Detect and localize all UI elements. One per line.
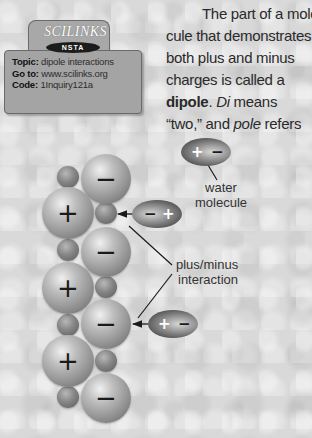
water-molecule-middle: − + (132, 200, 182, 228)
plus-sign: + (162, 207, 175, 222)
plus-sign: + (158, 317, 171, 332)
minus-sign: − (211, 145, 224, 160)
plus-sign: + (191, 145, 204, 160)
label-line: molecule (186, 195, 256, 210)
water-molecule-top: + − (181, 138, 231, 166)
interaction-label: plus/minus interaction (176, 257, 248, 287)
label-line: interaction (176, 272, 248, 287)
label-line: plus/minus (176, 257, 248, 272)
water-molecule-bottom: + − (148, 310, 198, 338)
water-molecule-label: water molecule (186, 180, 256, 210)
label-line: water (186, 180, 256, 195)
minus-sign: − (144, 207, 157, 222)
minus-sign: − (178, 317, 191, 332)
